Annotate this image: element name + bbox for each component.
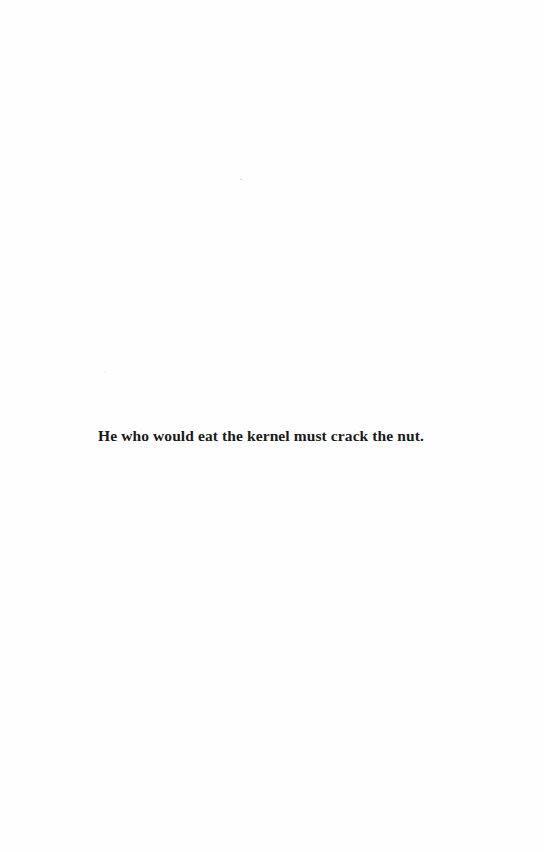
document-page: He who would eat the kernel must crack t… xyxy=(0,0,544,852)
epigraph-text: He who would eat the kernel must crack t… xyxy=(0,427,522,445)
scan-artifact xyxy=(104,372,105,373)
scan-artifact xyxy=(240,179,242,180)
